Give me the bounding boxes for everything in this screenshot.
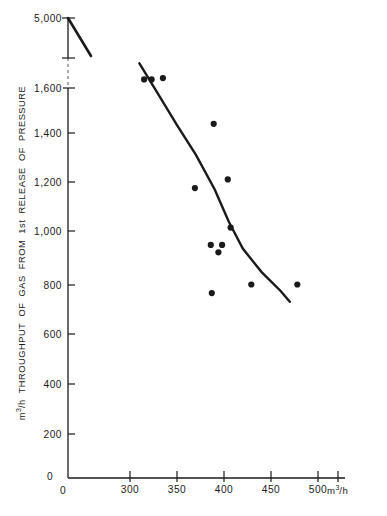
x-axis-ticks: [130, 471, 338, 482]
scatter-point: [294, 281, 300, 287]
scatter-point: [149, 76, 155, 82]
scatter-point-group: [141, 75, 300, 296]
scatter-point: [248, 281, 254, 287]
fitted-trend-curve: [139, 63, 289, 301]
scatter-point: [192, 185, 198, 191]
scatter-point: [211, 121, 217, 127]
scatter-point: [228, 225, 234, 231]
scatter-point: [209, 290, 215, 296]
chart-figure: m3/h THROUGHPUT OF GAS FROM 1st RELEASE …: [0, 0, 387, 516]
scatter-point: [225, 176, 231, 182]
scatter-point: [219, 242, 225, 248]
scatter-point: [160, 75, 166, 81]
scatter-point: [141, 76, 147, 82]
scatter-point: [215, 249, 221, 255]
scatter-point: [208, 242, 214, 248]
plot-canvas: [0, 0, 387, 516]
upper-break-curve-segment: [68, 18, 91, 56]
